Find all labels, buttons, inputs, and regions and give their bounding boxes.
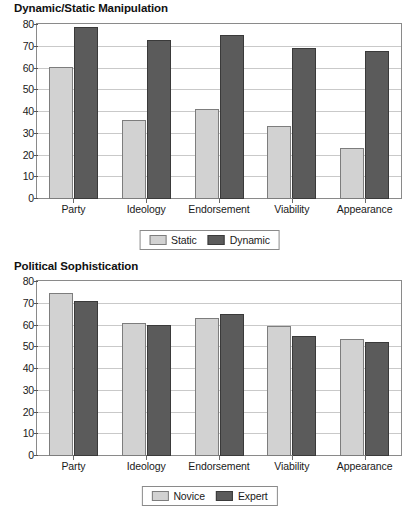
bar[interactable] bbox=[267, 126, 291, 199]
bar[interactable] bbox=[292, 336, 316, 456]
legend-label-static: Static bbox=[171, 234, 197, 246]
x-axis-label-ideology: Ideology bbox=[127, 203, 166, 215]
x-axis-label-party: Party bbox=[61, 203, 85, 215]
x-axis-label-appearance: Appearance bbox=[337, 460, 393, 472]
legend-swatch-icon-static bbox=[149, 235, 166, 245]
bar[interactable] bbox=[74, 301, 98, 456]
legend-item-dynamic[interactable]: Dynamic bbox=[208, 234, 270, 246]
x-axis-label-viability: Viability bbox=[274, 203, 309, 215]
bar[interactable] bbox=[49, 67, 73, 199]
legend-item-static[interactable]: Static bbox=[149, 234, 197, 246]
legend-swatch-icon-dynamic bbox=[208, 235, 225, 245]
bar-group bbox=[195, 24, 244, 199]
bar[interactable] bbox=[195, 109, 219, 199]
bar[interactable] bbox=[365, 51, 389, 199]
bar[interactable] bbox=[340, 339, 364, 456]
x-axis-label-party: Party bbox=[61, 460, 85, 472]
y-ticks-top bbox=[0, 23, 38, 199]
bar-group bbox=[340, 281, 389, 456]
x-axis-label-endorsement: Endorsement bbox=[188, 460, 249, 472]
x-axis-label-viability: Viability bbox=[274, 460, 309, 472]
legend-bottom: Novice Expert bbox=[141, 486, 277, 506]
bar[interactable] bbox=[267, 326, 291, 456]
chart-political-sophistication: Political Sophistication 010203040506070… bbox=[0, 258, 419, 517]
bar[interactable] bbox=[147, 40, 171, 199]
bar[interactable] bbox=[74, 27, 98, 199]
chart-title: Dynamic/Static Manipulation bbox=[14, 2, 168, 14]
legend-swatch-icon-novice bbox=[151, 491, 168, 501]
legend-label-novice: Novice bbox=[173, 490, 205, 502]
bar[interactable] bbox=[340, 148, 364, 199]
x-axis-label-ideology: Ideology bbox=[127, 460, 166, 472]
legend-top: Static Dynamic bbox=[139, 230, 280, 250]
bar[interactable] bbox=[220, 314, 244, 456]
x-axis-label-endorsement: Endorsement bbox=[188, 203, 249, 215]
bar-group bbox=[195, 281, 244, 456]
bar-group bbox=[122, 24, 171, 199]
bar-group bbox=[340, 24, 389, 199]
bar[interactable] bbox=[122, 120, 146, 199]
x-axis-label-appearance: Appearance bbox=[337, 203, 393, 215]
x-axis-labels-bottom: PartyIdeologyEndorsementViabilityAppeara… bbox=[36, 460, 402, 480]
bar[interactable] bbox=[195, 318, 219, 456]
bar-group bbox=[49, 281, 98, 456]
bar[interactable] bbox=[220, 35, 244, 199]
chart-dynamic-static-manipulation: Dynamic/Static Manipulation 010203040506… bbox=[0, 0, 419, 258]
x-axis-labels-top: PartyIdeologyEndorsementViabilityAppeara… bbox=[36, 203, 402, 223]
bar[interactable] bbox=[147, 325, 171, 456]
bar[interactable] bbox=[122, 323, 146, 456]
bar[interactable] bbox=[49, 293, 73, 456]
legend-swatch-icon-expert bbox=[216, 491, 233, 501]
y-ticks-bottom bbox=[0, 280, 38, 456]
bar[interactable] bbox=[365, 342, 389, 456]
bar-series-container-top bbox=[37, 24, 401, 199]
bar-group bbox=[49, 24, 98, 199]
legend-label-dynamic: Dynamic bbox=[230, 234, 270, 246]
bar-series-container-bottom bbox=[37, 281, 401, 456]
bar-group bbox=[267, 281, 316, 456]
legend-item-novice[interactable]: Novice bbox=[151, 490, 205, 502]
chart-title: Political Sophistication bbox=[14, 260, 138, 272]
bar-group bbox=[267, 24, 316, 199]
bar-group bbox=[122, 281, 171, 456]
legend-item-expert[interactable]: Expert bbox=[216, 490, 268, 502]
legend-label-expert: Expert bbox=[238, 490, 268, 502]
bar[interactable] bbox=[292, 48, 316, 199]
